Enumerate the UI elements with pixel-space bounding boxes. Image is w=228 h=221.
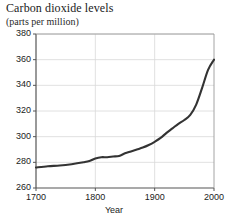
co2-line-chart: Carbon dioxide levels (parts per million… [0,0,228,221]
y-tick-label: 340 [1,79,31,89]
x-tick-label: 1800 [75,192,115,202]
y-tick-label: 280 [1,156,31,166]
y-tick-label: 320 [1,105,31,115]
tick-marks [33,34,214,191]
y-tick-label: 300 [1,131,31,141]
x-tick-label: 1900 [135,192,175,202]
y-tick-label: 360 [1,54,31,64]
plot-svg [0,0,228,221]
x-tick-label: 1700 [16,192,56,202]
x-axis-title: Year [0,205,228,215]
data-series [36,60,214,168]
plot-area: 260280300320340360380 1700180019002000 [0,0,228,221]
x-tick-label: 2000 [194,192,228,202]
y-tick-label: 380 [1,28,31,38]
y-tick-label: 260 [1,182,31,192]
